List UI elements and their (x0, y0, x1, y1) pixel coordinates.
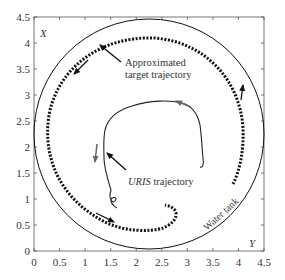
uris-annotation-pointer (107, 153, 126, 170)
x-tick-label: 4.5 (257, 256, 271, 268)
x-tick-label: 2 (133, 256, 139, 268)
y-tick-label: 4 (25, 37, 31, 49)
x-axis-tick-labels: 00.511.522.533.544.5 (31, 256, 271, 268)
x-tick-label: 0.5 (53, 256, 67, 268)
y-tick-label: 4.5 (16, 11, 30, 23)
uris-trajectory (104, 101, 204, 208)
uris-direction-arrow-left (95, 144, 97, 162)
y-tick-label: 0 (25, 245, 31, 257)
y-axis-tick-labels: 00.511.522.533.544.5 (16, 11, 30, 257)
trajectory-chart: 00.511.522.533.544.5 00.511.522.533.544.… (0, 0, 285, 280)
x-tick-label: 4 (236, 256, 242, 268)
target-direction-arrow-bottom (96, 213, 114, 222)
x-tick-label: 1 (82, 256, 88, 268)
y-tick-label: 0.5 (16, 219, 30, 231)
x-tick-label: 3.5 (206, 256, 220, 268)
uris-label: URIS trajectory (128, 176, 194, 187)
target-label-line2: target trajectory (125, 69, 192, 80)
target-label-line1: Approximated (125, 57, 186, 68)
target-annotation-pointer (100, 45, 121, 62)
x-tick-label: 2.5 (155, 256, 169, 268)
y-tick-label: 1 (25, 193, 31, 205)
y-axis-label: X (39, 27, 48, 39)
uris-direction-arrow-top (176, 101, 191, 107)
y-tick-label: 2.5 (16, 115, 30, 127)
uris-label-italic: URIS (128, 176, 151, 187)
uris-label-rest: trajectory (151, 176, 195, 187)
y-tick-label: 3.5 (16, 63, 30, 75)
x-tick-label: 0 (31, 256, 37, 268)
y-tick-label: 1.5 (16, 167, 30, 179)
x-tick-label: 1.5 (104, 256, 118, 268)
x-tick-label: 3 (185, 256, 191, 268)
water-tank-circle (34, 19, 264, 249)
y-tick-label: 2 (25, 141, 31, 153)
y-tick-label: 3 (25, 89, 31, 101)
x-axis-label: Y (249, 237, 257, 249)
target-direction-arrow-right (241, 85, 243, 100)
water-tank-label: Water tank (201, 195, 241, 232)
